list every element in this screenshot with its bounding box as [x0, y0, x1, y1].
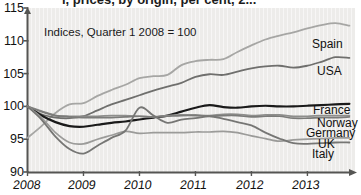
x-axis-tick-label: 2013 [292, 179, 321, 191]
series-label-italy: Italy [312, 148, 334, 160]
x-axis-tick-label: 2010 [124, 179, 153, 191]
series-lines-group [28, 23, 350, 154]
x-axis-tick-label: 2008 [12, 179, 41, 191]
x-axis-arrow-icon [349, 169, 357, 176]
series-label-france: France [313, 104, 350, 116]
x-axis-tick-label: 2012 [236, 179, 265, 191]
series-label-usa: USA [317, 65, 342, 77]
series-line-uk [28, 106, 350, 144]
chart-container: l, prices, by origin, per cent, 2... 115… [0, 0, 361, 195]
y-axis-tick-label: 115 [0, 2, 24, 14]
x-axis-tick-label: 2009 [68, 179, 97, 191]
y-axis-tick-label: 100 [0, 100, 24, 112]
y-axis-tick-label: 105 [0, 68, 24, 80]
y-axis-tick-label: 95 [0, 133, 24, 145]
x-axis-tick-label: 2011 [180, 179, 208, 191]
y-axis-tick-label: 90 [0, 166, 24, 178]
series-line-italy [28, 106, 350, 153]
y-axis-tick-label: 110 [0, 35, 24, 47]
chart-annotation: Indices, Quarter 1 2008 = 100 [44, 26, 196, 38]
series-label-spain: Spain [312, 38, 343, 50]
